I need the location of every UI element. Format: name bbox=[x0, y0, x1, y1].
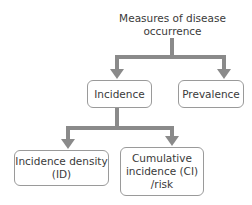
node-ci-line-2: incidence (CI) bbox=[126, 165, 198, 178]
node-id-line-2: (ID) bbox=[15, 168, 107, 181]
node-prevalence: Prevalence bbox=[178, 80, 244, 108]
node-prevalence-label: Prevalence bbox=[182, 88, 240, 101]
arrowhead-incidence-icon bbox=[110, 69, 124, 79]
node-ci-line-3: /risk bbox=[126, 178, 198, 191]
node-incidence-density: Incidence density (ID) bbox=[14, 150, 109, 186]
node-ci-line-1: Cumulative bbox=[126, 152, 198, 165]
node-id-line-1: Incidence density bbox=[15, 155, 107, 168]
node-incidence: Incidence bbox=[87, 80, 152, 108]
node-cumulative-incidence: Cumulative incidence (CI) /risk bbox=[120, 147, 204, 196]
node-incidence-label: Incidence bbox=[94, 88, 144, 101]
arrowhead-id-icon bbox=[61, 139, 75, 149]
arrowhead-ci-icon bbox=[165, 136, 179, 146]
arrowhead-prevalence-icon bbox=[217, 69, 231, 79]
